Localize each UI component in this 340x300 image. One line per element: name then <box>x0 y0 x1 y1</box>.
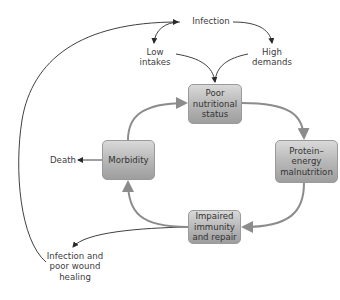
node-high-demands: High demands <box>249 47 295 68</box>
box-line: status <box>193 109 237 120</box>
node-poor-nutritional-status: Poor nutritional status <box>188 84 242 124</box>
box-line: Morbidity <box>108 155 148 166</box>
arrow-infection-to-low-intakes <box>154 22 180 43</box>
box-line: malnutrition <box>280 167 333 178</box>
node-infection-wound-healing: Infection and poor wound healing <box>46 251 104 282</box>
arrow-infection-to-high-demands <box>233 22 272 43</box>
box-line: immunity <box>192 222 236 233</box>
node-wound-line: healing <box>46 272 104 282</box>
box-line: and repair <box>192 232 236 243</box>
box-line: Poor <box>193 88 237 99</box>
node-wound-line: Infection and <box>46 251 104 261</box>
node-low-intakes-line: intakes <box>135 57 175 67</box>
box-line: energy <box>280 156 333 167</box>
node-protein-energy-malnutrition: Protein– energy malnutrition <box>275 140 338 183</box>
cycle-arrow-immunity-to-morbidity <box>128 182 188 227</box>
node-high-demands-line: High <box>249 47 295 57</box>
node-high-demands-line: demands <box>249 57 295 67</box>
node-death: Death <box>48 155 78 165</box>
node-death-line: Death <box>50 155 76 165</box>
box-line: Protein– <box>280 146 333 157</box>
node-low-intakes: Low intakes <box>135 47 175 68</box>
arrow-low-intakes-to-poor-nutrition <box>176 54 215 82</box>
node-morbidity: Morbidity <box>102 140 155 180</box>
node-infection: Infection <box>190 16 232 26</box>
node-infection-line: Infection <box>192 16 229 26</box>
arrow-immunity-to-wound-healing <box>73 227 188 247</box>
node-low-intakes-line: Low <box>135 47 175 57</box>
cycle-arrow-poor-nutrition-to-malnutrition <box>242 103 304 138</box>
box-line: nutritional <box>193 99 237 110</box>
box-line: Impaired <box>192 211 236 222</box>
arrow-high-demands-to-poor-nutrition <box>215 54 248 82</box>
node-wound-line: poor wound <box>46 261 104 271</box>
node-impaired-immunity: Impaired immunity and repair <box>188 210 241 244</box>
cycle-arrow-malnutrition-to-immunity <box>243 183 304 227</box>
cycle-arrow-morbidity-to-poor-nutrition <box>128 103 186 140</box>
